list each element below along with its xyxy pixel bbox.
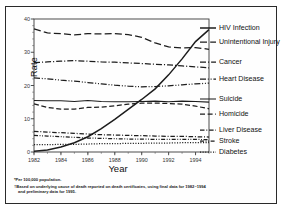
series-line-suicide: [34, 100, 209, 102]
series-line-unintentional-injury: [34, 29, 209, 49]
x-tick-label: 1986: [75, 157, 101, 163]
y-tick-label: 40: [12, 16, 30, 22]
x-axis-ticks: [34, 152, 209, 155]
footnote-line-b: and preliminary data for 1995.: [14, 189, 272, 194]
legend-item-heart-disease: Heart Disease: [219, 75, 264, 83]
legend-item-diabetes: Diabetes: [219, 148, 247, 156]
legend-item-cancer: Cancer: [219, 58, 242, 66]
legend-line-swatches: [200, 28, 216, 152]
plot-frame: [34, 19, 209, 152]
series-line-diabetes: [34, 143, 209, 145]
series-line-liver-disease: [34, 131, 209, 137]
y-tick-label: 0: [12, 149, 30, 155]
data-series-group: [34, 29, 209, 151]
y-tick-label: 30: [12, 49, 30, 55]
x-axis-title: Year: [78, 163, 158, 174]
legend-item-homicide: Homicide: [219, 110, 249, 118]
x-tick-label: 1982: [21, 157, 47, 163]
legend-item-liver-disease: Liver Disease: [219, 126, 262, 134]
legend-item-stroke: Stroke: [219, 137, 240, 145]
legend-item-hiv-infection: HIV Infection: [219, 24, 260, 32]
x-tick-label: 1994: [183, 157, 209, 163]
legend-item-unintentional-injury: Unintentional Injury: [219, 38, 280, 46]
x-tick-label: 1988: [102, 157, 128, 163]
y-tick-label: 20: [12, 83, 30, 89]
footnote-data-source: †Based on underlying cause of death repo…: [14, 184, 272, 194]
plot-area-border: [34, 19, 209, 152]
series-line-heart-disease: [34, 78, 209, 87]
x-tick-label: 1990: [129, 157, 155, 163]
footnote-per-population: *Per 100,000 population.: [14, 177, 272, 182]
x-tick-label: 1992: [156, 157, 182, 163]
legend-item-suicide: Suicide: [219, 95, 242, 103]
x-tick-label: 1984: [48, 157, 74, 163]
series-line-cancer: [34, 61, 209, 68]
series-line-hiv-infection: [34, 30, 209, 152]
y-axis-title: Rate: [29, 41, 39, 93]
series-line-homicide: [34, 103, 209, 109]
y-tick-label: 10: [12, 116, 30, 122]
